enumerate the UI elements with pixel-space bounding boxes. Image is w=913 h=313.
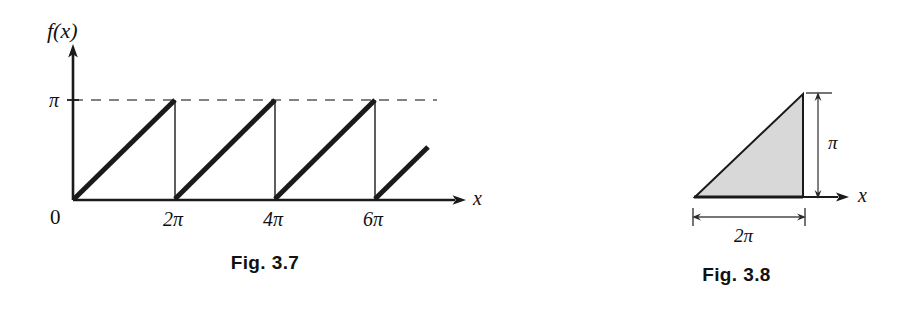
sawtooth-ramp-4-partial	[375, 147, 428, 199]
width-label-2pi: 2π	[734, 226, 753, 245]
x-tick-label-4pi: 4π	[263, 209, 283, 229]
figure-3-8: π 2π x Fig. 3.8	[560, 0, 913, 313]
figure-3-7-caption: Fig. 3.7	[0, 252, 530, 274]
x-tick-label-6pi: 6π	[363, 209, 383, 229]
shaded-triangle	[695, 94, 803, 197]
sawtooth-ramp-2	[175, 100, 275, 199]
sawtooth-ramp-1	[74, 100, 175, 199]
x-axis-label: x	[858, 185, 867, 205]
origin-label: 0	[50, 207, 61, 228]
sawtooth-ramp-3	[275, 100, 375, 199]
x-axis-label: x	[473, 188, 482, 208]
figure-page: f(x) π x 0 2π 4π 6π Fig. 3.7	[0, 0, 913, 313]
y-axis-label: f(x)	[47, 20, 78, 42]
figure-3-8-caption: Fig. 3.8	[560, 264, 913, 286]
x-tick-label-2pi: 2π	[163, 209, 183, 229]
height-label-pi: π	[828, 133, 838, 152]
figure-3-7: f(x) π x 0 2π 4π 6π Fig. 3.7	[0, 0, 520, 313]
y-tick-label-pi: π	[49, 90, 59, 110]
